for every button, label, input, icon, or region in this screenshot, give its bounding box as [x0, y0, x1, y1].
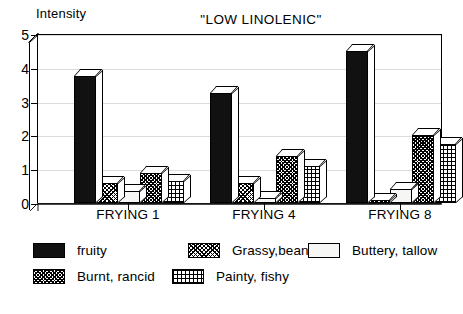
legend-row-1: fruityGrassy,beanyButtery, tallow	[0, 243, 462, 265]
legend-swatch-hatch	[33, 269, 65, 284]
bar-group	[346, 35, 456, 203]
plot-area: 012345	[37, 34, 442, 203]
legend-swatch-cross	[188, 243, 220, 258]
bar	[210, 93, 232, 203]
bar-front-face	[74, 76, 96, 203]
legend-item: Painty, fishy	[172, 269, 289, 284]
legend-item: Burnt, rancid	[33, 269, 155, 284]
bar-side-face	[320, 160, 327, 203]
bar	[74, 76, 96, 203]
plot-wrapper: 012345 FRYING 1FRYING 4FRYING 8	[0, 0, 462, 232]
y-tick	[31, 35, 38, 36]
x-tick-label: FRYING 1	[96, 207, 160, 222]
x-tick-label: FRYING 8	[368, 207, 432, 222]
bar-front-face	[210, 93, 232, 203]
bar-side-face	[434, 129, 441, 203]
bar-side-face	[368, 45, 375, 203]
bar-group	[210, 35, 320, 203]
legend-swatch-solid	[33, 243, 65, 258]
bar-side-face	[298, 149, 305, 203]
legend-item: Buttery, tallow	[308, 243, 437, 258]
bar	[346, 51, 368, 203]
legend-label: fruity	[77, 243, 107, 258]
bar-group	[74, 35, 184, 203]
y-tick	[31, 204, 38, 205]
axis-left-wall	[29, 41, 37, 210]
y-tick	[31, 136, 38, 137]
y-tick-label: 5	[21, 28, 29, 42]
legend-label: Grassy,beany	[232, 243, 316, 258]
bar-side-face	[232, 87, 239, 203]
legend-swatch-white	[308, 243, 340, 258]
legend-item: fruity	[33, 243, 107, 258]
y-tick	[31, 103, 38, 104]
bar-side-face	[456, 138, 463, 203]
bar-front-face	[346, 51, 368, 203]
legend-label: Burnt, rancid	[77, 269, 155, 284]
legend-item: Grassy,beany	[188, 243, 316, 258]
y-tick-label: 1	[21, 163, 29, 177]
y-tick-label: 4	[21, 62, 29, 76]
legend-label: Painty, fishy	[216, 269, 289, 284]
y-tick	[31, 170, 38, 171]
legend-row-2: Burnt, rancidPainty, fishy	[0, 269, 462, 291]
legend-swatch-grid	[172, 269, 204, 284]
y-tick	[31, 69, 38, 70]
y-tick-label: 0	[21, 197, 29, 211]
y-tick-label: 2	[21, 129, 29, 143]
x-tick-label: FRYING 4	[232, 207, 296, 222]
y-tick-label: 3	[21, 96, 29, 110]
bar-side-face	[96, 70, 103, 203]
legend-label: Buttery, tallow	[352, 243, 437, 258]
